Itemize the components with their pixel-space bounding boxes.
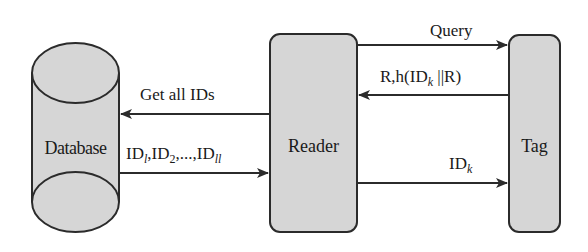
tag-label: Tag xyxy=(509,137,560,155)
id-list-part: ,ID xyxy=(147,144,169,163)
database-label: Database xyxy=(37,139,114,157)
id-list-part: ID xyxy=(126,144,144,163)
diagram-shapes xyxy=(0,0,588,252)
response-part: R,h(ID xyxy=(380,67,428,86)
get-all-ids-label: Get all IDs xyxy=(140,86,215,103)
query-label: Query xyxy=(430,22,472,39)
id-list-sub: ll xyxy=(215,152,222,166)
id-list-part: ,...,ID xyxy=(176,144,215,163)
tag-box xyxy=(509,35,560,232)
reader-box xyxy=(270,34,357,232)
id-k-sub: k xyxy=(467,162,472,176)
rfid-protocol-diagram: Database Reader Tag Get all IDs IDl,ID2,… xyxy=(0,0,588,252)
reader-label: Reader xyxy=(270,137,357,155)
id-list-label: IDl,ID2,...,IDll xyxy=(126,145,221,165)
response-part: ||R) xyxy=(433,67,461,86)
id-k-label: IDk xyxy=(449,155,472,175)
response-label: R,h(IDk ||R) xyxy=(380,68,461,88)
id-k-part: ID xyxy=(449,154,467,173)
